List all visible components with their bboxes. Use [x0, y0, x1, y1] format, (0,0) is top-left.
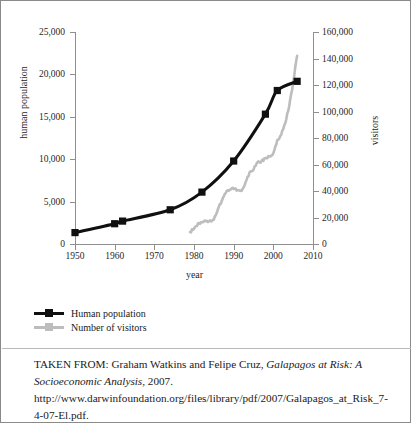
data-point-marker — [230, 157, 237, 164]
data-point-marker — [294, 78, 301, 85]
legend-item-number-of-visitors: Number of visitors — [34, 320, 147, 334]
caption-divider — [2, 348, 411, 349]
chart-region: 05,00010,00015,00020,00025,000 020,00040… — [1, 1, 411, 301]
data-point-marker — [274, 87, 281, 94]
caption-prefix: TAKEN FROM: Graham Watkins and Felipe Cr… — [34, 358, 266, 370]
data-point-marker — [111, 220, 118, 227]
line-human-population — [75, 81, 297, 232]
legend-label-human-population: Human population — [71, 308, 146, 319]
data-point-marker — [119, 218, 126, 225]
caption-middle: , 2007. — [142, 375, 173, 387]
legend-swatch-number-of-visitors — [34, 321, 64, 333]
line-number-of-visitors — [190, 56, 297, 232]
chart-legend: Human population Number of visitors — [34, 306, 147, 334]
chart-plot-svg — [1, 1, 411, 301]
data-point-marker — [71, 229, 78, 236]
figure-container: 05,00010,00015,00020,00025,000 020,00040… — [0, 0, 411, 423]
data-point-marker — [262, 111, 269, 118]
series-number-of-visitors — [190, 56, 297, 232]
legend-item-human-population: Human population — [34, 306, 147, 320]
legend-label-number-of-visitors: Number of visitors — [71, 322, 147, 333]
data-point-marker — [198, 189, 205, 196]
figure-caption: TAKEN FROM: Graham Watkins and Felipe Cr… — [34, 356, 386, 423]
data-point-marker — [167, 206, 174, 213]
caption-url: http://www.darwinfoundation.org/files/li… — [34, 392, 388, 421]
legend-swatch-human-population — [34, 307, 64, 319]
